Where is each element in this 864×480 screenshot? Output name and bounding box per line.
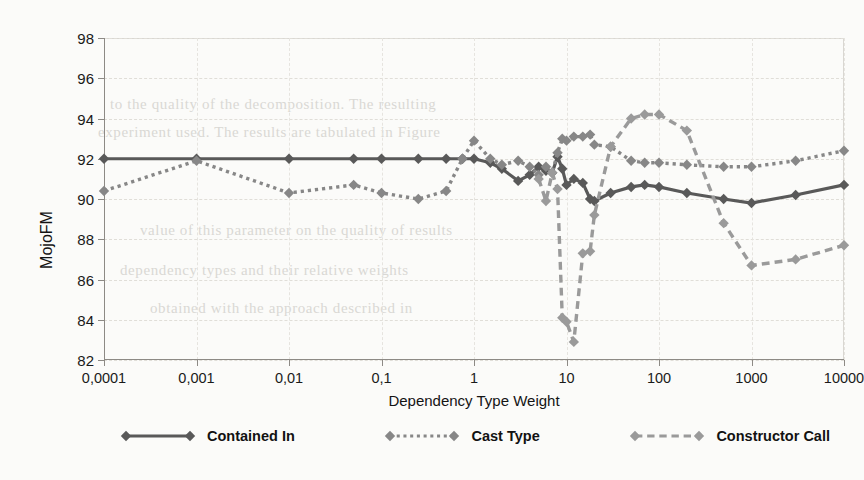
legend-swatch-constructor-call xyxy=(627,428,707,444)
data-point-marker xyxy=(284,154,294,164)
data-point-marker xyxy=(790,156,800,166)
series-contained-in xyxy=(99,152,849,209)
data-point-marker xyxy=(639,109,649,119)
series-constructor-call xyxy=(533,109,849,347)
legend-marker xyxy=(385,431,395,441)
data-point-marker xyxy=(839,146,849,156)
data-point-marker xyxy=(718,218,728,228)
data-point-marker xyxy=(654,158,664,168)
x-tick-mark xyxy=(382,360,383,366)
data-point-marker xyxy=(552,184,562,194)
data-point-marker xyxy=(718,194,728,204)
data-series-layer xyxy=(104,38,844,360)
x-tick-mark xyxy=(104,360,105,366)
x-tick-label: 0,1 xyxy=(371,370,391,386)
data-point-marker xyxy=(585,246,595,256)
legend-swatch-contained-in xyxy=(118,428,198,444)
data-point-marker xyxy=(541,196,551,206)
y-tick-label: 90 xyxy=(77,191,94,208)
data-point-marker xyxy=(626,182,636,192)
x-tick-mark xyxy=(567,360,568,366)
data-point-marker xyxy=(654,182,664,192)
legend-marker xyxy=(694,431,704,441)
data-point-marker xyxy=(413,194,423,204)
data-point-marker xyxy=(746,162,756,172)
y-axis-title: MojoFM xyxy=(38,211,56,269)
legend-label-constructor-call: Constructor Call xyxy=(716,428,830,444)
data-point-marker xyxy=(441,186,451,196)
data-point-marker xyxy=(585,129,595,139)
legend-label-contained-in: Contained In xyxy=(207,428,295,444)
data-point-marker xyxy=(578,248,588,258)
data-point-marker xyxy=(348,180,358,190)
series-cast-type xyxy=(99,129,849,204)
x-tick-label: 0,01 xyxy=(275,370,303,386)
x-tick-mark xyxy=(844,360,845,366)
legend-item-cast-type[interactable]: Cast Type xyxy=(382,428,539,444)
y-tick-label: 96 xyxy=(77,70,94,87)
data-point-marker xyxy=(790,254,800,264)
data-point-marker xyxy=(376,154,386,164)
data-point-marker xyxy=(839,240,849,250)
data-point-marker xyxy=(639,180,649,190)
data-point-marker xyxy=(589,210,599,220)
x-tick-label: 1 xyxy=(470,370,478,386)
legend-marker xyxy=(185,431,195,441)
data-point-marker xyxy=(469,154,479,164)
legend-marker xyxy=(630,431,640,441)
legend-marker xyxy=(121,431,131,441)
data-point-marker xyxy=(839,180,849,190)
y-tick-label: 92 xyxy=(77,150,94,167)
legend-label-cast-type: Cast Type xyxy=(471,428,539,444)
data-point-marker xyxy=(413,154,423,164)
data-point-marker xyxy=(578,178,588,188)
legend-item-constructor-call[interactable]: Constructor Call xyxy=(627,428,830,444)
y-tick-label: 82 xyxy=(77,352,94,369)
x-tick-mark xyxy=(197,360,198,366)
y-tick-label: 84 xyxy=(77,311,94,328)
data-point-marker xyxy=(348,154,358,164)
plot-area: 828486889092949698 0,00010,0010,010,1110… xyxy=(104,38,844,360)
legend-item-contained-in[interactable]: Contained In xyxy=(118,428,295,444)
data-point-marker xyxy=(682,160,692,170)
y-tick-label: 88 xyxy=(77,231,94,248)
chart-legend: Contained In Cast Type Constructor Call xyxy=(104,428,844,444)
data-point-marker xyxy=(746,198,756,208)
x-tick-label: 0,0001 xyxy=(82,370,126,386)
gridline-vertical xyxy=(844,38,845,360)
x-tick-label: 10000 xyxy=(824,370,864,386)
data-point-marker xyxy=(605,188,615,198)
data-point-marker xyxy=(569,337,579,347)
y-tick-label: 94 xyxy=(77,110,94,127)
x-tick-label: 100 xyxy=(647,370,671,386)
legend-marker xyxy=(449,431,459,441)
x-tick-mark xyxy=(289,360,290,366)
x-tick-mark xyxy=(752,360,753,366)
data-point-marker xyxy=(191,156,201,166)
data-point-marker xyxy=(578,131,588,141)
x-tick-mark xyxy=(659,360,660,366)
data-point-marker xyxy=(790,190,800,200)
data-point-marker xyxy=(99,186,109,196)
data-point-marker xyxy=(682,188,692,198)
data-point-marker xyxy=(639,158,649,168)
data-point-marker xyxy=(746,260,756,270)
data-point-marker xyxy=(284,188,294,198)
data-point-marker xyxy=(589,139,599,149)
series-line xyxy=(539,114,844,341)
data-point-marker xyxy=(376,188,386,198)
data-point-marker xyxy=(441,154,451,164)
data-point-marker xyxy=(557,164,567,174)
legend-swatch-cast-type xyxy=(382,428,462,444)
x-tick-mark xyxy=(474,360,475,366)
x-tick-label: 10 xyxy=(558,370,574,386)
x-tick-label: 1000 xyxy=(735,370,767,386)
data-point-marker xyxy=(718,162,728,172)
y-tick-label: 98 xyxy=(77,30,94,47)
y-tick-label: 86 xyxy=(77,271,94,288)
data-point-marker xyxy=(99,154,109,164)
data-point-marker xyxy=(626,156,636,166)
x-tick-label: 0,001 xyxy=(178,370,214,386)
x-axis-title: Dependency Type Weight xyxy=(104,392,844,409)
